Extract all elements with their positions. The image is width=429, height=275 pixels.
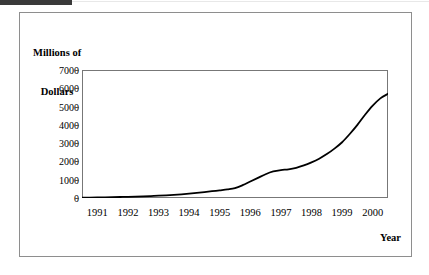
x-axis-tick-label: 1993 [143,207,174,219]
y-axis-tick-mark [75,180,79,181]
x-axis-tick-label: 1991 [82,207,113,219]
y-axis-tick-mark [75,70,79,71]
x-axis-tick-label: 1997 [266,207,297,219]
x-axis-title: Year [380,232,401,243]
x-axis-tick-label: 2000 [357,207,388,219]
y-axis-tick-mark [75,198,79,199]
x-axis-tick-label: 1999 [327,207,358,219]
data-series-line [82,94,388,198]
x-axis-tick-label: 1995 [204,207,235,219]
y-axis-tick-mark [75,88,79,89]
y-axis-tick-label-group: 70006000500040003000200010000 [34,64,79,204]
x-axis-tick-label: 1992 [113,207,144,219]
chart-plot-svg [82,70,388,198]
x-axis-tick-label: 1998 [296,207,327,219]
chart-page: Millions of Dollars 70006000500040003000… [0,0,429,275]
y-axis-tick-mark [75,125,79,126]
y-axis-tick-mark [75,143,79,144]
x-axis-tick-label-group: 1991199219931994199519961997199819992000 [82,207,388,223]
y-axis-title-line-1: Millions of [33,46,81,59]
y-axis-tick-mark [75,107,79,108]
y-axis-tick-mark [75,161,79,162]
top-hairline-divider [72,1,429,2]
top-accent-bar [0,0,72,5]
x-axis-tick-label: 1994 [174,207,205,219]
x-axis-tick-label: 1996 [235,207,266,219]
